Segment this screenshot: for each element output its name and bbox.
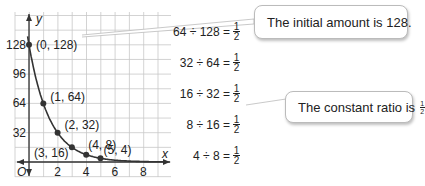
point-label: (3, 16): [34, 146, 69, 160]
ratio-equation: 16 ÷ 32 =12: [180, 84, 240, 103]
data-point: [40, 100, 46, 106]
origin-label: O: [17, 165, 26, 179]
ratio-fraction: 12: [420, 100, 425, 115]
x-tick-label: 6: [111, 165, 118, 179]
y-axis-label: y: [35, 12, 43, 26]
point-label: (0, 128): [36, 38, 77, 52]
y-tick-label: 96: [13, 67, 27, 81]
equation-lhs: 8 ÷ 16 =: [186, 118, 230, 132]
data-point: [69, 144, 75, 150]
ratio-equation: 64 ÷ 128 =12: [173, 22, 240, 41]
equation-lhs: 4 ÷ 8 =: [193, 149, 230, 163]
fraction: 12: [233, 84, 240, 103]
equation-lhs: 64 ÷ 128 =: [173, 25, 230, 39]
equation-lhs: 16 ÷ 32 =: [180, 87, 230, 101]
callout-initial-amount: The initial amount is 128.: [254, 5, 408, 39]
y-tick-label: 64: [13, 96, 27, 110]
ratio-equation: 32 ÷ 64 =12: [180, 53, 240, 72]
fraction: 12: [233, 22, 240, 41]
point-label: (1, 64): [50, 90, 85, 104]
x-tick-label: 2: [54, 165, 61, 179]
x-tick-label: 4: [83, 165, 90, 179]
ratio-equation: 4 ÷ 8 =12: [193, 146, 240, 165]
callout-initial-text: The initial amount is 128.: [267, 15, 412, 30]
data-point: [83, 152, 89, 158]
fraction: 12: [233, 146, 240, 165]
ratio-equation: 8 ÷ 16 =12: [186, 115, 240, 134]
fraction: 12: [233, 53, 240, 72]
data-point: [26, 42, 32, 48]
callout-pointer-ratio: [246, 99, 286, 108]
callout-ratio-prefix: The constant ratio is: [298, 100, 419, 115]
y-tick-label: 128: [6, 38, 26, 52]
callout-constant-ratio: The constant ratio is 12 .: [285, 91, 413, 123]
point-label: (5, 4): [104, 143, 132, 157]
y-tick-label: 32: [13, 126, 27, 140]
equation-lhs: 32 ÷ 64 =: [180, 56, 230, 70]
data-point: [55, 130, 61, 136]
x-tick-label: 8: [140, 165, 147, 179]
x-axis-label: x: [161, 147, 169, 161]
point-label: (2, 32): [65, 118, 100, 132]
fraction: 12: [233, 115, 240, 134]
